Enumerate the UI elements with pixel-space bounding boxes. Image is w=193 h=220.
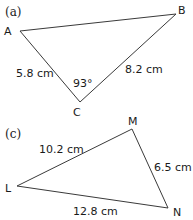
vertex-label-a: A: [4, 25, 12, 38]
angle-label-c: 93°: [73, 77, 93, 90]
vertex-label-l: L: [5, 182, 12, 195]
side-label-ac: 5.8 cm: [16, 67, 54, 80]
vertex-label-n: N: [173, 206, 181, 219]
triangle-lmn: (c) L M N 10.2 cm 6.5 cm 12.8 cm: [5, 115, 192, 219]
vertex-label-m: M: [128, 115, 138, 128]
triangle-lmn-outline: [17, 129, 168, 208]
side-label-mn: 6.5 cm: [154, 161, 192, 174]
part-label-a: (a): [5, 5, 22, 19]
part-label-c: (c): [5, 127, 21, 141]
side-label-lm: 10.2 cm: [39, 143, 84, 156]
vertex-label-c: C: [73, 106, 81, 119]
vertex-label-b: B: [178, 4, 186, 17]
side-label-ln: 12.8 cm: [73, 205, 118, 218]
side-label-bc: 8.2 cm: [125, 63, 163, 76]
triangle-abc-outline: [20, 14, 176, 102]
triangles-diagram: (a) A B C 5.8 cm 8.2 cm 93° (c) L M N 10…: [0, 0, 193, 220]
triangle-abc: (a) A B C 5.8 cm 8.2 cm 93°: [4, 4, 186, 119]
